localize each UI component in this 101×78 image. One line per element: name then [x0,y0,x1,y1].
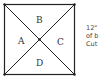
side-text-line-2: of b [86,32,98,40]
corner-dot [3,3,5,5]
region-label-b: B [36,15,43,25]
corner-dot [73,3,75,5]
corner-dot [73,73,75,75]
region-label-a: A [17,36,25,46]
side-text-line-1: 12" [86,24,97,32]
corner-dot [3,73,5,75]
side-text-line-3: Cut [86,40,97,48]
region-label-d: D [36,58,43,68]
region-label-c: C [57,37,64,47]
center-dot [38,38,40,40]
